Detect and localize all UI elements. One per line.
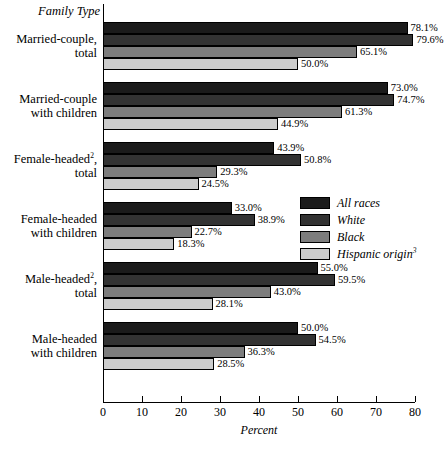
legend-item[interactable]: Black <box>300 230 440 245</box>
legend-swatch <box>300 214 330 226</box>
legend-label-superscript: 3 <box>413 246 417 255</box>
legend-item[interactable]: All races <box>300 196 440 211</box>
bar[interactable] <box>103 286 271 298</box>
legend-label: Hispanic origin3 <box>337 247 416 262</box>
bar-value-label: 50.0% <box>301 57 328 70</box>
bar-row: 44.9% <box>103 118 415 130</box>
bar[interactable] <box>103 178 199 190</box>
bar-value-label: 43.9% <box>277 141 304 154</box>
x-axis-tick <box>259 396 260 402</box>
bar[interactable] <box>103 238 174 250</box>
x-axis-tick <box>415 396 416 402</box>
bar-row: 50.8% <box>103 154 415 166</box>
x-axis-tick-label: 0 <box>88 405 118 419</box>
x-axis-tick <box>142 396 143 402</box>
legend-label: White <box>337 213 365 228</box>
category-label: Married-couple,total <box>2 32 97 60</box>
x-axis-tick-label: 30 <box>205 405 235 419</box>
category-label-line2: total <box>2 166 97 180</box>
bar-value-label: 50.8% <box>304 153 331 166</box>
bar-value-label: 28.1% <box>216 297 243 310</box>
bar[interactable] <box>103 358 214 370</box>
bar-value-label: 74.7% <box>397 93 424 106</box>
bar-value-label: 24.5% <box>202 177 229 190</box>
category-label-line1: Married-couple, <box>2 32 97 46</box>
category-label-line1: Male-headed2, <box>2 272 97 286</box>
x-axis-title: Percent <box>103 423 415 438</box>
category-label: Male-headedwith children <box>2 332 97 360</box>
bar-row: 24.5% <box>103 178 415 190</box>
bar[interactable] <box>103 118 278 130</box>
bar[interactable] <box>103 22 408 34</box>
x-axis-line <box>103 402 415 403</box>
bar-value-label: 36.3% <box>248 345 275 358</box>
x-axis-tick-label: 20 <box>166 405 196 419</box>
bar-value-label: 18.3% <box>177 237 204 250</box>
bar-value-label: 43.0% <box>274 285 301 298</box>
bar[interactable] <box>103 82 388 94</box>
x-axis-tick <box>376 396 377 402</box>
bar-group: Married-couple,total78.1%79.6%65.1%50.0% <box>103 22 415 70</box>
category-label-line1: Male-headed <box>2 332 97 346</box>
category-label-line1: Married-couple <box>2 92 97 106</box>
bar[interactable] <box>103 202 232 214</box>
bar-row: 28.1% <box>103 298 415 310</box>
bar[interactable] <box>103 214 255 226</box>
bar-row: 28.5% <box>103 358 415 370</box>
category-label-superscript: 2 <box>90 151 94 160</box>
legend: All racesWhiteBlackHispanic origin3 <box>300 196 440 264</box>
x-axis-tick-label: 60 <box>322 405 352 419</box>
x-axis-tick <box>181 396 182 402</box>
category-label: Female-headed2,total <box>2 152 97 180</box>
bar-value-label: 28.5% <box>217 357 244 370</box>
bar[interactable] <box>103 262 318 274</box>
legend-swatch <box>300 248 330 260</box>
bar-value-label: 38.9% <box>258 213 285 226</box>
bar-group: Married-couplewith children73.0%74.7%61.… <box>103 82 415 130</box>
bar[interactable] <box>103 298 213 310</box>
bar-row: 78.1% <box>103 22 415 34</box>
bar[interactable] <box>103 334 316 346</box>
bar-group: Male-headedwith children50.0%54.5%36.3%2… <box>103 322 415 370</box>
bar-value-label: 59.5% <box>338 273 365 286</box>
y-axis-title: Family Type <box>12 4 100 18</box>
x-axis-tick <box>337 396 338 402</box>
category-label-line2: with children <box>2 346 97 360</box>
bar-row: 50.0% <box>103 58 415 70</box>
bar-row: 65.1% <box>103 46 415 58</box>
legend-item[interactable]: White <box>300 213 440 228</box>
category-label-line2: with children <box>2 106 97 120</box>
category-label-line1: Female-headed <box>2 212 97 226</box>
category-label-line2: with children <box>2 226 97 240</box>
category-label-superscript: 2 <box>90 271 94 280</box>
legend-swatch <box>300 197 330 209</box>
bar-row: 43.0% <box>103 286 415 298</box>
legend-item[interactable]: Hispanic origin3 <box>300 247 440 262</box>
bar-row: 43.9% <box>103 142 415 154</box>
legend-label: All races <box>337 196 380 211</box>
bar[interactable] <box>103 142 274 154</box>
bar[interactable] <box>103 154 301 166</box>
category-label-line1: Female-headed2, <box>2 152 97 166</box>
bar-row: 50.0% <box>103 322 415 334</box>
category-label: Male-headed2,total <box>2 272 97 300</box>
bar-value-label: 79.6% <box>416 33 443 46</box>
x-axis-tick-label: 40 <box>244 405 274 419</box>
x-axis-tick-label: 80 <box>400 405 430 419</box>
bar-row: 29.3% <box>103 166 415 178</box>
category-label-line2: total <box>2 286 97 300</box>
bar[interactable] <box>103 58 298 70</box>
x-axis-tick <box>220 396 221 402</box>
x-axis-tick-label: 10 <box>127 405 157 419</box>
bar[interactable] <box>103 322 298 334</box>
legend-label: Black <box>337 230 364 245</box>
bar-value-label: 61.3% <box>345 105 372 118</box>
bar-row: 61.3% <box>103 106 415 118</box>
bar[interactable] <box>103 166 217 178</box>
bar-value-label: 44.9% <box>281 117 308 130</box>
bar-group: Female-headed2,total43.9%50.8%29.3%24.5% <box>103 142 415 190</box>
x-axis-tick <box>298 396 299 402</box>
bar-row: 59.5% <box>103 274 415 286</box>
x-axis-tick-label: 50 <box>283 405 313 419</box>
